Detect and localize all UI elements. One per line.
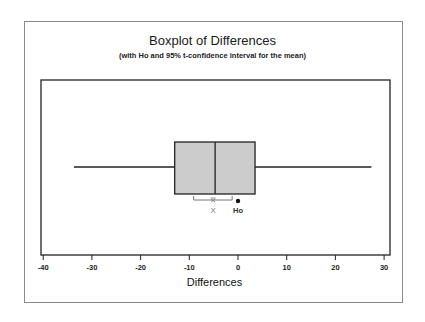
ho-label: Ho [233, 206, 243, 215]
x-tick-label: 20 [331, 263, 339, 272]
x-axis: -40-30-20-100102030 [38, 255, 388, 272]
x-tick-label: -10 [184, 263, 195, 272]
x-tick-label: -30 [86, 263, 97, 272]
x-tick-label: -20 [135, 263, 146, 272]
mean-label: X [210, 206, 216, 215]
x-tick-label: 0 [236, 263, 240, 272]
ho-marker [236, 199, 240, 203]
x-tick-label: 30 [380, 263, 388, 272]
x-tick-label: -40 [38, 263, 49, 272]
x-tick-label: 10 [283, 263, 291, 272]
x-axis-label: Differences [0, 276, 425, 288]
plot-area: -40-30-20-100102030 XHo [0, 0, 425, 322]
boxplot: XHo [74, 142, 372, 215]
